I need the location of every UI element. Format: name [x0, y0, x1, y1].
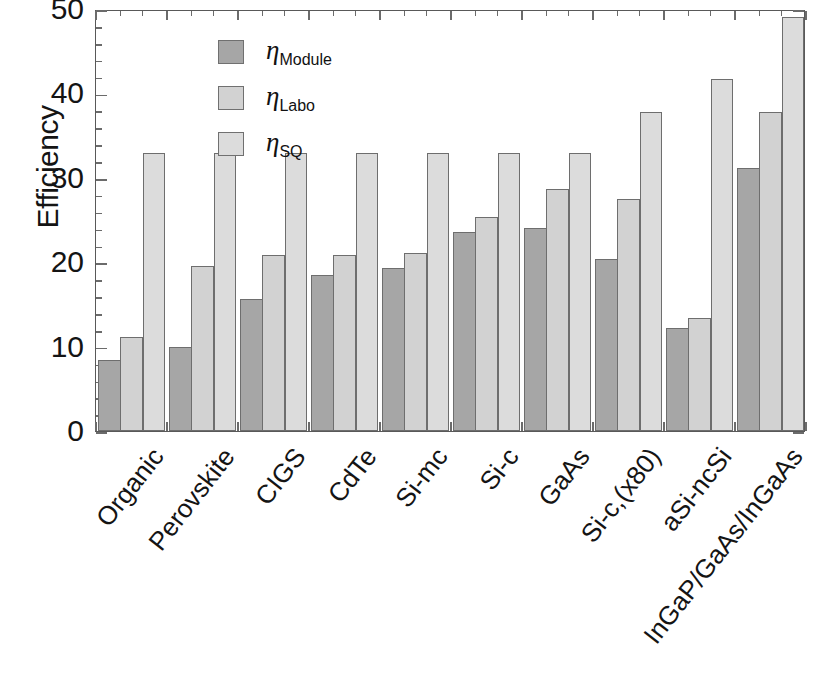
legend-item-labo: ηLabo — [218, 79, 438, 117]
legend-label-sq: ηSQ — [266, 127, 303, 161]
y-tick-label: 50 — [26, 0, 84, 24]
y-tick-label: 30 — [26, 163, 84, 193]
bar — [524, 228, 547, 431]
bar — [240, 299, 263, 431]
bar — [382, 268, 405, 431]
bar — [782, 17, 805, 431]
bar — [453, 232, 476, 431]
x-tick-label: CdTe — [322, 442, 384, 509]
bar — [262, 255, 285, 431]
bar — [98, 360, 121, 431]
bar — [356, 153, 379, 431]
x-tick-label: Si-c — [474, 442, 526, 496]
bar — [498, 153, 521, 431]
bar — [737, 168, 760, 431]
legend-swatch-module — [218, 40, 244, 64]
x-tick-label: GaAs — [532, 442, 596, 512]
y-tick-label: 40 — [26, 78, 84, 108]
x-tick-label: Si-mc — [389, 442, 454, 513]
legend-swatch-labo — [218, 86, 244, 110]
x-tick-label: CIGS — [249, 442, 313, 511]
x-axis-tick — [805, 422, 807, 431]
bar — [333, 255, 356, 431]
efficiency-bar-chart: Efficiency 01020304050 ηModule ηLabo ηSQ… — [0, 0, 816, 684]
bar — [311, 275, 334, 431]
bar — [475, 217, 498, 431]
bar — [617, 199, 640, 431]
bar — [666, 328, 689, 431]
legend: ηModule ηLabo ηSQ — [218, 33, 438, 171]
plot-area: ηModule ηLabo ηSQ — [95, 10, 805, 432]
legend-swatch-sq — [218, 132, 244, 156]
bar — [569, 153, 592, 431]
bar — [191, 266, 214, 431]
bar — [143, 153, 166, 431]
bar — [759, 112, 782, 431]
bar — [595, 259, 618, 431]
legend-item-sq: ηSQ — [218, 125, 438, 163]
bar — [546, 189, 569, 431]
legend-label-module: ηModule — [266, 35, 332, 69]
bar — [640, 112, 663, 431]
bar — [711, 79, 734, 431]
legend-label-labo: ηLabo — [266, 81, 315, 115]
y-axis-tick-labels: 01020304050 — [22, 0, 84, 684]
y-tick-label: 0 — [26, 416, 84, 446]
bar — [688, 318, 711, 431]
x-axis-tick — [805, 11, 807, 20]
legend-item-module: ηModule — [218, 33, 438, 71]
bar — [214, 153, 237, 431]
bar — [169, 347, 192, 431]
y-tick-label: 20 — [26, 247, 84, 277]
bar — [404, 253, 427, 431]
bar — [427, 153, 450, 431]
bar — [285, 153, 308, 431]
bar-series-container — [96, 11, 804, 431]
y-tick-label: 10 — [26, 332, 84, 362]
x-axis-tick-labels: OrganicPerovskiteCIGSCdTeSi-mcSi-cGaAsSi… — [95, 432, 805, 684]
bar — [120, 337, 143, 431]
